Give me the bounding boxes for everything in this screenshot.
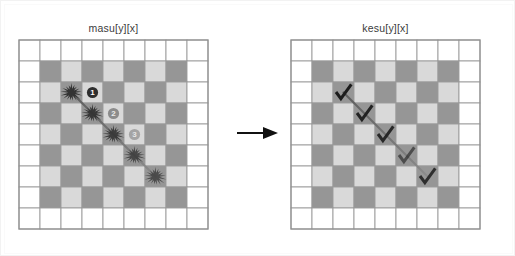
board-cell — [40, 166, 61, 187]
board-cell — [145, 82, 166, 103]
board-cell — [103, 40, 124, 61]
step-badge: 2 — [108, 108, 119, 119]
board-cell — [396, 40, 417, 61]
board-kesu — [290, 39, 481, 230]
board-cell — [291, 61, 312, 82]
board-cell — [19, 61, 40, 82]
board-cell — [459, 187, 480, 208]
board-cell — [103, 208, 124, 229]
board-cell — [166, 103, 187, 124]
board-cell — [187, 61, 208, 82]
board-cell — [459, 208, 480, 229]
board-cell — [438, 208, 459, 229]
board-cell — [291, 103, 312, 124]
board-cell — [438, 145, 459, 166]
board-cell — [291, 166, 312, 187]
board-cell — [19, 166, 40, 187]
board-cell — [375, 187, 396, 208]
board-cell — [124, 187, 145, 208]
board-cell — [40, 61, 61, 82]
board-cell — [396, 187, 417, 208]
board-cell — [61, 103, 82, 124]
board-cell — [19, 145, 40, 166]
board-cell — [312, 61, 333, 82]
panel-title-masu: masu[y][x] — [1, 22, 226, 34]
board-cell — [396, 208, 417, 229]
board-cell — [417, 187, 438, 208]
panel-title-kesu: kesu[y][x] — [273, 22, 498, 34]
board-cell — [438, 40, 459, 61]
board-cell — [82, 40, 103, 61]
board-cell — [40, 124, 61, 145]
board-cell — [459, 103, 480, 124]
board-cell — [145, 187, 166, 208]
step-badge-label: 2 — [111, 109, 116, 118]
board-cell — [312, 40, 333, 61]
board-cell — [312, 166, 333, 187]
board-cell — [166, 208, 187, 229]
board-cell — [145, 124, 166, 145]
board-cell — [459, 145, 480, 166]
board-cell — [19, 82, 40, 103]
board-cell — [333, 124, 354, 145]
board-cell — [354, 145, 375, 166]
board-cell — [459, 82, 480, 103]
board-cell — [187, 82, 208, 103]
board-cell — [187, 187, 208, 208]
board-cell — [375, 82, 396, 103]
board-cell — [459, 124, 480, 145]
board-cell — [166, 187, 187, 208]
board-cell — [124, 40, 145, 61]
board-cell — [145, 103, 166, 124]
board-cell — [333, 166, 354, 187]
board-cell — [187, 166, 208, 187]
board-cell — [82, 145, 103, 166]
board-cell — [417, 61, 438, 82]
board-cell — [19, 103, 40, 124]
board-cell — [417, 40, 438, 61]
board-cell — [103, 145, 124, 166]
board-cell — [61, 124, 82, 145]
board-cell — [396, 166, 417, 187]
board-cell — [354, 40, 375, 61]
board-cell — [354, 208, 375, 229]
board-cell — [61, 40, 82, 61]
board-cell — [61, 187, 82, 208]
board-cell — [333, 61, 354, 82]
board-cell — [354, 61, 375, 82]
board-cell — [375, 103, 396, 124]
panel-masu: masu[y][x] 123 — [1, 1, 226, 256]
board-cell — [333, 103, 354, 124]
board-cell — [312, 145, 333, 166]
board-cell — [40, 208, 61, 229]
board-cell — [396, 103, 417, 124]
board-cell — [438, 124, 459, 145]
grid-kesu — [290, 39, 481, 230]
board-cell — [61, 61, 82, 82]
board-cell — [312, 103, 333, 124]
board-cell — [459, 40, 480, 61]
board-cell — [375, 208, 396, 229]
board-cell — [375, 61, 396, 82]
board-cell — [396, 61, 417, 82]
step-badge-label: 3 — [132, 130, 137, 139]
board-cell — [354, 166, 375, 187]
board-cell — [82, 187, 103, 208]
board-cell — [187, 40, 208, 61]
step-badge: 3 — [129, 129, 140, 140]
board-cell — [82, 166, 103, 187]
board-cell — [417, 103, 438, 124]
board-cell — [187, 124, 208, 145]
board-cell — [40, 187, 61, 208]
board-cell — [312, 187, 333, 208]
step-badge: 1 — [87, 87, 98, 98]
board-cell — [291, 124, 312, 145]
board-cell — [124, 166, 145, 187]
board-cell — [459, 61, 480, 82]
board-cell — [375, 40, 396, 61]
board-cell — [438, 187, 459, 208]
board-cell — [187, 208, 208, 229]
board-cell — [438, 61, 459, 82]
board-cell — [19, 40, 40, 61]
board-cell — [438, 82, 459, 103]
